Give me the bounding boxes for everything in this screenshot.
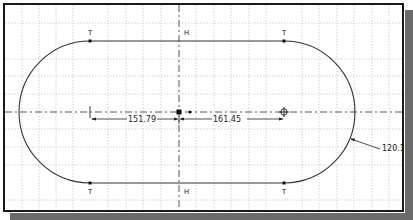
frame-shadow-right [405, 10, 413, 220]
horizontal-constraint-bottom: H [184, 188, 189, 196]
horizontal-constraint-top: H [184, 29, 189, 37]
sketch-canvas[interactable]: T T T T H H 151.79 161.45 [3, 3, 404, 212]
origin-point[interactable] [177, 110, 182, 115]
endpoint-bottom-right[interactable] [283, 182, 286, 185]
midpoint-dot[interactable] [189, 111, 192, 114]
tangent-constraint-top-right: T [281, 29, 287, 37]
frame-shadow-bottom [10, 213, 413, 220]
tangent-constraint-top-left: T [87, 29, 93, 37]
grid [5, 5, 404, 212]
endpoint-bottom-left[interactable] [89, 182, 92, 185]
dimension-left-value[interactable]: 151.79 [128, 115, 156, 124]
endpoint-top-left[interactable] [89, 40, 92, 43]
endpoint-top-right[interactable] [283, 40, 286, 43]
radius-dimension-leader[interactable] [350, 139, 380, 150]
dimension-right-value[interactable]: 161.45 [213, 115, 241, 124]
sketch-drawing: T T T T H H 151.79 161.45 [5, 5, 404, 212]
tangent-constraint-bottom-right: T [281, 188, 287, 196]
tangent-constraint-bottom-left: T [87, 188, 93, 196]
radius-dimension-value[interactable]: 120.14 [382, 144, 404, 153]
right-arc-center-icon[interactable] [279, 107, 289, 117]
